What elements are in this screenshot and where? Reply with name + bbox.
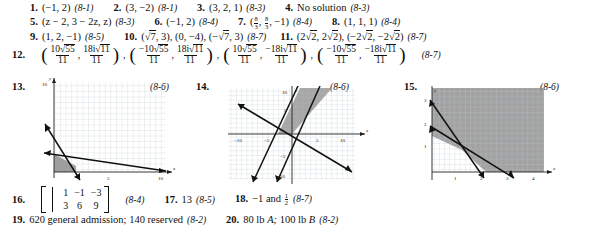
- answer-row-3: 9. (1, 2, −1) (8-5) 10. (√7, 3), (0, −4)…: [30, 30, 589, 42]
- fraction: 10√55 11: [231, 44, 259, 66]
- denominator: 11: [335, 55, 348, 66]
- item-reference: (8-4): [381, 17, 400, 27]
- pair-comma: ,: [78, 51, 81, 59]
- x-axis-arrow: [360, 132, 365, 136]
- item-number: 8.: [332, 16, 340, 27]
- paren-close: ): [206, 47, 212, 62]
- x-tick--5: −5: [264, 138, 270, 143]
- answer-row-6: 19. 620 general admission; 140 reserved …: [12, 214, 589, 225]
- item-number: 2.: [114, 2, 122, 13]
- matrix-cell-r2c1: 3: [63, 200, 68, 213]
- x-axis-arrow: [547, 170, 552, 174]
- pair-comma: ,: [171, 51, 174, 59]
- item-reference: (8-2): [187, 215, 206, 225]
- item-reference: (8-4): [125, 195, 144, 205]
- item-answer: (√7, 3), (0, −4), (−√7, 3): [141, 30, 243, 42]
- answer-item-3: 3. (3, 2, 1) (8-3): [197, 2, 265, 13]
- answer-key-page: 1. (−1, 2) (8-1) 2. (3, −2) (8-1) 3. (3,…: [0, 0, 589, 240]
- item-number: 14.: [196, 81, 209, 92]
- graph-14-svg: −10 −5 5 10 10 5 −5 −10 y x: [220, 86, 370, 186]
- ordered-pair-3: ( 10√55 11 , −18i√11 11 ): [223, 44, 306, 66]
- numerator: 18i√11: [175, 44, 206, 55]
- ordered-pair-2: ( −10√55 11 , 18i√11 11 ): [130, 44, 213, 66]
- item-reference: (8-7): [247, 32, 266, 42]
- answer-item-18: 18. −1 and 12 (8-7): [235, 193, 312, 207]
- item-reference: (8-7): [422, 50, 441, 60]
- item-answer: (83, 83, −1): [250, 16, 289, 30]
- item-number: 5.: [30, 16, 38, 27]
- x-tick-1: 1: [454, 176, 457, 181]
- answer-item-16: 16. 1 −1 −3 3 6 9 (8-4): [12, 186, 144, 213]
- numerator: −18i√11: [362, 44, 398, 55]
- item-number: 1.: [30, 2, 38, 13]
- denominator: 11: [184, 55, 197, 66]
- item-answer: (−1, 2): [42, 2, 71, 13]
- pair-comma: ,: [260, 51, 263, 59]
- item-number: 10.: [124, 31, 137, 42]
- matrix-cell-r1c2: −1: [74, 187, 85, 200]
- matrix-cell-r2c3: 9: [91, 200, 102, 213]
- x-axis-label: x: [172, 166, 176, 171]
- item-reference: (8-4): [293, 17, 312, 27]
- matrix-cell-r1c3: −3: [91, 187, 102, 200]
- matrix-cell-r1c1: 1: [63, 187, 68, 200]
- answer-item-15-header: 15.: [404, 76, 417, 94]
- graph-13: 10 5 5 10 y x: [32, 74, 177, 182]
- x-tick-10: 10: [340, 138, 346, 143]
- numerator: 10√55: [231, 44, 259, 55]
- item-answer: No solution: [297, 2, 346, 13]
- answer-item-8: 8. (1, 1, 1) (8-4): [332, 16, 400, 27]
- fraction: −18i√11 11: [263, 44, 299, 66]
- fraction-one-half: 12: [285, 193, 288, 207]
- fraction: −18i√11 11: [362, 44, 398, 66]
- item-answer: (3, 2, 1): [209, 2, 242, 13]
- item-number: 20.: [226, 214, 239, 225]
- numerator: 10√55: [48, 44, 76, 55]
- answer-item-10: 10. (√7, 3), (0, −4), (−√7, 3) (8-7): [124, 30, 266, 42]
- fraction: 18i√11 11: [81, 44, 112, 66]
- group-separator: ,: [311, 49, 314, 60]
- denominator: 11: [374, 55, 387, 66]
- y-tick--5: −5: [280, 154, 286, 159]
- item-number: 3.: [197, 2, 205, 13]
- denominator: 11: [56, 55, 69, 66]
- matrix-cell-r2c2: 6: [74, 200, 85, 213]
- graph-15-svg: 1 2 3 4 1 2 3 y x: [418, 86, 558, 186]
- answer-item-1: 1. (−1, 2) (8-1): [30, 2, 94, 13]
- y-tick-1: 1: [424, 144, 427, 149]
- denominator: 11: [275, 55, 288, 66]
- numerator: −10√55: [137, 44, 171, 55]
- answer-item-7: 7. (83, 83, −1) (8-4): [238, 16, 312, 30]
- item-number: 18.: [235, 193, 248, 204]
- item-reference: (8-4): [199, 17, 218, 27]
- item-reference: (8-3): [350, 3, 369, 13]
- numerator: −18i√11: [263, 44, 299, 55]
- item-number: 19.: [12, 214, 25, 225]
- paren-open: (: [130, 47, 136, 62]
- answer-item-17: 17. 13 (8-5): [164, 194, 215, 205]
- answer-item-14-header: 14.: [196, 76, 209, 94]
- item-number: 12.: [12, 49, 25, 60]
- answer-item-2: 2. (3, −2) (8-1): [114, 2, 178, 13]
- grid-area: [432, 88, 544, 172]
- item-answer: (2√2, 2√2), (−2√2, −2√2): [297, 30, 404, 42]
- item-number: 15.: [404, 81, 417, 92]
- matrix-divider: [52, 187, 54, 212]
- y-axis-label: y: [48, 76, 52, 81]
- fraction-8-3-first: 83: [254, 16, 257, 30]
- x-tick-10: 10: [158, 176, 164, 181]
- item-answer: 13: [182, 194, 193, 205]
- graph-13-svg: 10 5 5 10 y x: [32, 74, 177, 182]
- item-answer: (z − 2, 3 − 2z, z): [42, 16, 112, 27]
- x-axis-label: x: [552, 166, 556, 171]
- matrix-grid: 1 −1 −3 3 6 9: [46, 186, 104, 213]
- item-answer: (1, 1, 1): [344, 16, 377, 27]
- item-number: 4.: [285, 2, 293, 13]
- item-answer: 620 general admission; 140 reserved: [29, 214, 183, 225]
- paren-close: ): [113, 47, 119, 62]
- item-reference: (8-5): [196, 195, 215, 205]
- y-tick--10: −10: [277, 174, 285, 179]
- paren-close: ): [399, 47, 405, 62]
- answer-item-9: 9. (1, 2, −1) (8-5): [30, 31, 104, 42]
- answer-item-6: 6. (−1, 2) (8-4): [154, 16, 218, 27]
